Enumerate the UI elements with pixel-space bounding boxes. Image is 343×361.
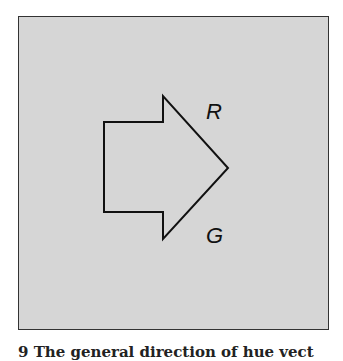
label-r: R xyxy=(206,99,222,125)
label-g: G xyxy=(206,223,223,249)
figure-caption: 9 The general direction of hue vect xyxy=(18,343,314,361)
